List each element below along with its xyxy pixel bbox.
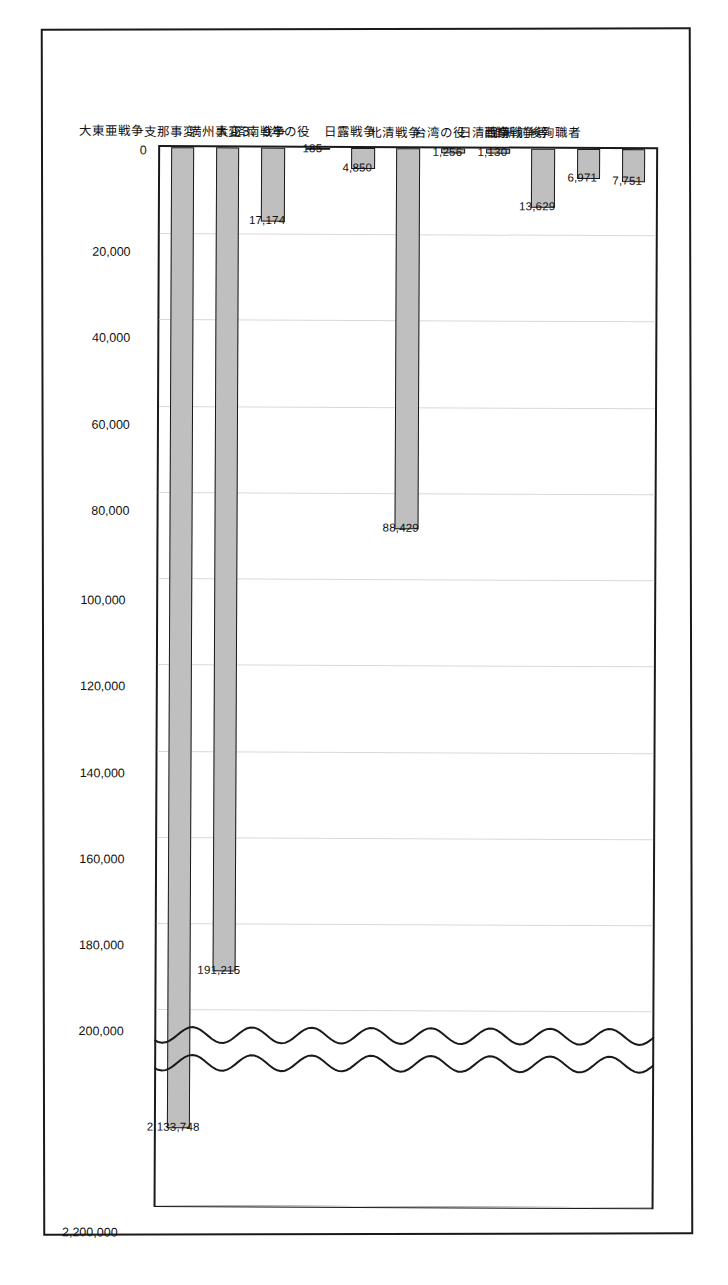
bar-group: 88,429日露戦争: [404, 148, 409, 1206]
axis-break-marker: [154, 1009, 654, 1091]
x-axis-tick-label: 60,000: [92, 418, 130, 431]
y-axis-category-label: 支那事変: [144, 125, 196, 138]
bar-group: 1,130台湾の役: [494, 148, 499, 1206]
x-axis-tick-label: 40,000: [92, 332, 130, 345]
bar-group: 17,174満州事変: [268, 147, 273, 1205]
y-axis-category-label: 日露戦争: [324, 126, 376, 139]
y-axis-category-label: 満州事変: [189, 125, 241, 138]
x-axis-tick-label: 20,000: [92, 245, 130, 258]
bar-group: 2,133,748大東亜戦争: [178, 147, 183, 1205]
bar-value-label: 185: [302, 143, 322, 155]
bar[interactable]: [395, 148, 420, 529]
bar-group: 13,629日清戦争: [539, 148, 544, 1206]
plot-frame: 020,00040,00060,00080,000100,000120,0001…: [154, 145, 659, 1209]
bar[interactable]: [261, 147, 285, 221]
bar-group: 185済南戦争: [313, 147, 318, 1205]
bar[interactable]: [167, 147, 195, 1128]
x-axis-tick-label: 120,000: [80, 680, 125, 693]
bar-value-label: 88,429: [383, 522, 419, 534]
bar-value-label: 17,174: [249, 215, 285, 227]
bar-group: 7,751維新前後殉職者: [629, 149, 634, 1207]
bar-value-label: 191,215: [197, 965, 240, 977]
bar-group: 1,256北清戦争: [449, 148, 454, 1206]
x-axis-tick-label: 2,200,000: [62, 1226, 118, 1239]
bar-value-label: 1,256: [433, 147, 463, 159]
bar-value-label: 6,971: [568, 172, 598, 184]
bar-value-label: 2,133,748: [146, 1121, 199, 1133]
bar-group: 6,971西南戦争等: [584, 148, 589, 1206]
y-axis-category-label: 済南戦争: [234, 125, 286, 138]
x-axis-tick-label: 180,000: [79, 939, 124, 952]
x-axis-tick-label: 0: [140, 144, 147, 157]
y-axis-category-label: 北清戦争: [369, 126, 421, 139]
bar-value-label: 13,629: [519, 200, 555, 212]
x-axis-tick-label: 80,000: [91, 504, 129, 517]
x-axis-tick-label: 160,000: [79, 852, 124, 865]
bar[interactable]: [212, 147, 239, 971]
y-axis-category-label: 日清戦争: [459, 126, 511, 139]
x-axis-tick-label: 100,000: [80, 594, 125, 607]
x-axis-tick-label: 200,000: [78, 1025, 123, 1038]
bar[interactable]: [531, 148, 555, 207]
gridline: [156, 1009, 652, 1012]
bar-value-label: 4,850: [342, 162, 372, 174]
bar-group: 4,850大正3、9年の役: [358, 147, 363, 1205]
plot-area: 020,00040,00060,00080,000100,000120,0001…: [156, 147, 657, 1207]
bar-chart: 020,00040,00060,00080,000100,000120,0001…: [61, 66, 666, 1219]
bar-value-label: 1,130: [478, 146, 508, 158]
y-axis-category-label: 台湾の役: [414, 126, 466, 139]
bar-group: 191,215支那事変: [223, 147, 228, 1205]
gridline: [156, 1205, 652, 1208]
y-axis-category-label: 大東亜戦争: [79, 125, 144, 138]
x-axis-tick-label: 140,000: [80, 766, 125, 779]
bar-value-label: 7,751: [613, 175, 643, 187]
